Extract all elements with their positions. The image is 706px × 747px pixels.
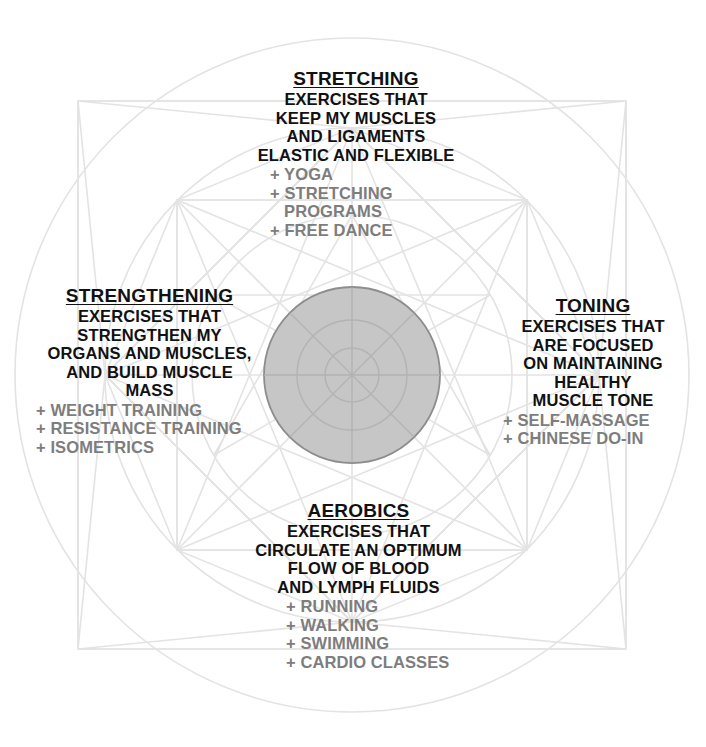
center-hub: [264, 287, 440, 463]
quadrant-items-stretching: + YOGA + STRETCHING PROGRAMS + FREE DANC…: [249, 165, 463, 239]
description-line: CIRCULATE AN OPTIMUM: [232, 541, 485, 559]
list-item: PROGRAMS: [270, 202, 463, 220]
description-line: STRENGTHEN MY: [34, 326, 265, 344]
quadrant-stretching: STRETCHING EXERCISES THAT KEEP MY MUSCLE…: [249, 68, 463, 239]
description-line: EXERCISES THAT: [496, 317, 690, 335]
hub-inner-circle: [297, 320, 407, 430]
description-line: ARE FOCUSED: [496, 336, 690, 354]
hub-spokes: [264, 287, 440, 463]
quadrant-aerobics: AEROBICS EXERCISES THAT CIRCULATE AN OPT…: [232, 500, 485, 671]
description-line: FLOW OF BLOOD: [232, 559, 485, 577]
list-item: + RUNNING: [286, 597, 485, 615]
list-item: + ISOMETRICS: [36, 438, 265, 456]
description-line: MASS: [34, 381, 265, 399]
hub-core-circle: [325, 348, 379, 402]
list-item: + RESISTANCE TRAINING: [36, 419, 265, 437]
description-line: AND LIGAMENTS: [249, 127, 463, 145]
list-item: + SELF-MASSAGE: [503, 411, 690, 429]
list-item: + CARDIO CLASSES: [286, 653, 485, 671]
description-line: KEEP MY MUSCLES: [249, 109, 463, 127]
quadrant-description-strengthening: EXERCISES THAT STRENGTHEN MY ORGANS AND …: [34, 307, 265, 399]
quadrant-description-toning: EXERCISES THAT ARE FOCUSED ON MAINTAININ…: [496, 317, 690, 409]
description-line: EXERCISES THAT: [249, 90, 463, 108]
list-item: + CHINESE DO-IN: [503, 429, 690, 447]
description-line: HEALTHY: [496, 373, 690, 391]
quadrant-items-aerobics: + RUNNING + WALKING + SWIMMING + CARDIO …: [232, 597, 485, 671]
quadrant-title-toning: TONING: [496, 295, 690, 316]
description-line: EXERCISES THAT: [232, 522, 485, 540]
quadrant-toning: TONING EXERCISES THAT ARE FOCUSED ON MAI…: [496, 295, 690, 448]
list-item: + SWIMMING: [286, 634, 485, 652]
list-item: + WALKING: [286, 616, 485, 634]
quadrant-description-aerobics: EXERCISES THAT CIRCULATE AN OPTIMUM FLOW…: [232, 522, 485, 596]
description-line: MUSCLE TONE: [496, 391, 690, 409]
list-item: + YOGA: [270, 165, 463, 183]
quadrant-items-strengthening: + WEIGHT TRAINING + RESISTANCE TRAINING …: [34, 401, 265, 456]
quadrant-title-stretching: STRETCHING: [249, 68, 463, 89]
description-line: ELASTIC AND FLEXIBLE: [249, 146, 463, 164]
quadrant-title-aerobics: AEROBICS: [232, 500, 485, 521]
diagram-canvas: STRETCHING EXERCISES THAT KEEP MY MUSCLE…: [0, 0, 706, 747]
list-item: + FREE DANCE: [270, 221, 463, 239]
hub-inner-marks: [264, 287, 440, 463]
description-line: ORGANS AND MUSCLES,: [34, 344, 265, 362]
quadrant-description-stretching: EXERCISES THAT KEEP MY MUSCLES AND LIGAM…: [249, 90, 463, 164]
description-line: AND BUILD MUSCLE: [34, 363, 265, 381]
quadrant-title-strengthening: STRENGTHENING: [34, 285, 265, 306]
description-line: EXERCISES THAT: [34, 307, 265, 325]
list-item: + STRETCHING: [270, 184, 463, 202]
quadrant-strengthening: STRENGTHENING EXERCISES THAT STRENGTHEN …: [34, 285, 265, 456]
quadrant-items-toning: + SELF-MASSAGE + CHINESE DO-IN: [496, 411, 690, 448]
description-line: AND LYMPH FLUIDS: [232, 578, 485, 596]
description-line: ON MAINTAINING: [496, 354, 690, 372]
list-item: + WEIGHT TRAINING: [36, 401, 265, 419]
